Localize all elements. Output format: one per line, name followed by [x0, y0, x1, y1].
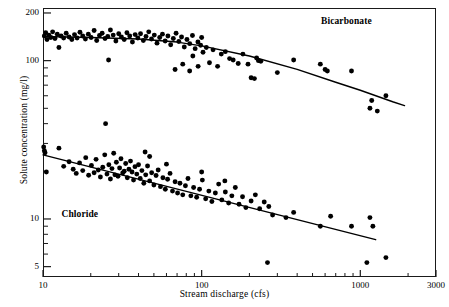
y-axis-major-ticks	[43, 13, 51, 267]
x-axis-major-ticks	[43, 270, 436, 277]
x-axis-title: Stream discharge (cfs)	[0, 289, 449, 299]
series-label-chloride: Chloride	[61, 209, 98, 219]
y-axis-minor-ticks	[43, 68, 48, 254]
y-axis-title: Solute concentration (mg/l)	[19, 40, 29, 220]
y-tick-label-200: 200	[8, 7, 39, 17]
series-label-bicarbonate: Bicarbonate	[321, 16, 372, 26]
chart-canvas	[0, 0, 449, 307]
figure-container: 200100105 1010010003000 Bicarbonate Chlo…	[0, 0, 449, 307]
y-tick-label-5: 5	[8, 261, 39, 271]
